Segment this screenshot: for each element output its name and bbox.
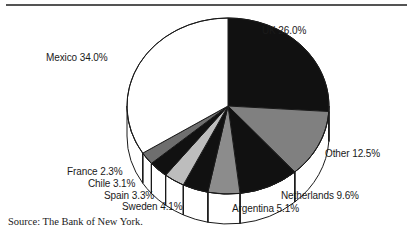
slice-label-netherlands: Netherlands 9.6% — [281, 190, 359, 201]
slice-label-sweden: Sweden 4.1% — [122, 201, 183, 212]
slice-label-spain: Spain 3.3% — [104, 190, 154, 201]
slice-label-other: Other 12.5% — [325, 148, 380, 159]
slice-label-mexico: Mexico 34.0% — [46, 52, 108, 63]
pie-chart-figure — [0, 0, 413, 237]
source-note: Source: The Bank of New York. — [8, 216, 143, 227]
slice-label-argentina: Argentina 5.1% — [232, 203, 299, 214]
slice-label-uk: UK 26.0% — [262, 25, 306, 36]
slice-label-france: France 2.3% — [67, 166, 123, 177]
slice-label-chile: Chile 3.1% — [88, 178, 135, 189]
chart-page: UK 26.0% Mexico 34.0% Other 12.5% Nether… — [0, 0, 413, 237]
